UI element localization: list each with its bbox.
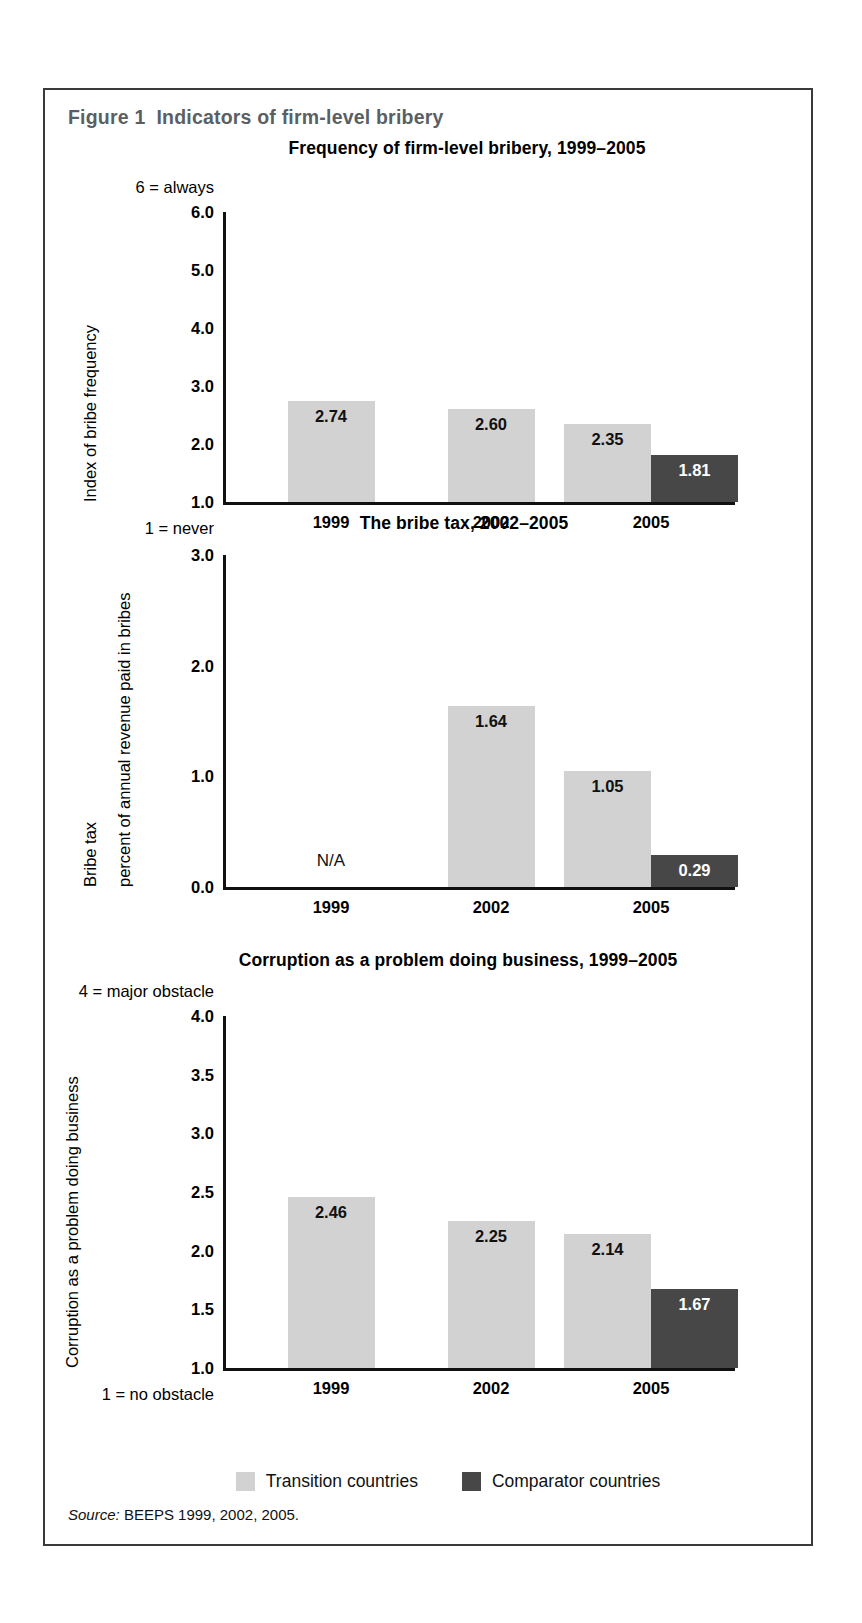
y-tick-label: 3.0 bbox=[191, 377, 214, 396]
bar-value-label: 1.05 bbox=[564, 778, 651, 795]
x-tick-label-1999: 1999 bbox=[313, 898, 350, 917]
source-text: BEEPS 1999, 2002, 2005. bbox=[124, 1506, 299, 1523]
x-axis-line bbox=[223, 887, 735, 890]
legend-swatch-comparator bbox=[462, 1472, 481, 1491]
bar-transition-1999: 2.74 bbox=[288, 401, 375, 502]
y-tick-label: 6.0 bbox=[191, 203, 214, 222]
figure-frame: Figure 1Indicators of firm-level bribery… bbox=[43, 88, 813, 1546]
legend-item-comparator: Comparator countries bbox=[462, 1471, 660, 1492]
bar-transition-2002: 2.60 bbox=[448, 409, 535, 502]
bar-value-label: 2.35 bbox=[564, 431, 651, 448]
y-tick-label: 2.0 bbox=[191, 656, 214, 675]
bar-value-label: 0.29 bbox=[651, 862, 738, 879]
source-keyword: Source: bbox=[68, 1506, 120, 1523]
y-tick-label: 3.0 bbox=[191, 1124, 214, 1143]
y-axis-line bbox=[223, 555, 226, 887]
y-tick-label: 1.5 bbox=[191, 1300, 214, 1319]
panel-title: Corruption as a problem doing business, … bbox=[45, 950, 811, 971]
y-axis-top-caption: 6 = always bbox=[136, 178, 214, 197]
x-tick-label-2002: 2002 bbox=[473, 1379, 510, 1398]
figure-caption: Figure 1Indicators of firm-level bribery bbox=[68, 106, 444, 129]
bar-value-label: 1.67 bbox=[651, 1296, 738, 1313]
y-tick-label: 2.0 bbox=[191, 435, 214, 454]
x-tick-label-2005: 2005 bbox=[633, 898, 670, 917]
plot-area: 1.01.52.02.53.03.54.04 = major obstacle1… bbox=[223, 1016, 735, 1368]
chart-legend: Transition countriesComparator countries bbox=[45, 1471, 811, 1492]
y-axis-line bbox=[223, 212, 226, 502]
bar-comparator-2005: 1.67 bbox=[651, 1289, 738, 1368]
plot-area: 0.01.02.03.0N/A19991.6420021.050.292005 bbox=[223, 555, 735, 887]
legend-item-transition: Transition countries bbox=[236, 1471, 418, 1492]
y-tick-label: 5.0 bbox=[191, 261, 214, 280]
x-tick-label-2005: 2005 bbox=[633, 1379, 670, 1398]
y-tick-label: 4.0 bbox=[191, 1007, 214, 1026]
y-tick-label: 3.0 bbox=[191, 546, 214, 565]
bar-comparator-2005: 1.81 bbox=[651, 455, 738, 502]
bar-value-label: 2.14 bbox=[564, 1241, 651, 1258]
y-axis-line bbox=[223, 1016, 226, 1368]
y-axis-title: Index of bribe frequency bbox=[81, 325, 100, 502]
y-tick-label: 1.0 bbox=[191, 1359, 214, 1378]
figure-number: Figure 1 bbox=[68, 106, 145, 128]
panel-title: The bribe tax, 2002–2005 bbox=[45, 513, 811, 534]
legend-label-transition: Transition countries bbox=[266, 1471, 418, 1492]
y-axis-top-caption: 4 = major obstacle bbox=[79, 982, 214, 1001]
bar-value-label: 2.25 bbox=[448, 1228, 535, 1245]
figure-caption-text: Indicators of firm-level bribery bbox=[156, 106, 443, 128]
y-tick-label: 3.5 bbox=[191, 1065, 214, 1084]
x-axis-line bbox=[223, 1368, 735, 1371]
x-tick-label-2002: 2002 bbox=[473, 898, 510, 917]
y-axis-bottom-caption: 1 = no obstacle bbox=[102, 1385, 214, 1404]
legend-swatch-transition bbox=[236, 1472, 255, 1491]
bar-transition-2005: 2.35 bbox=[564, 424, 651, 502]
bar-transition-2005: 1.05 bbox=[564, 771, 651, 887]
legend-label-comparator: Comparator countries bbox=[492, 1471, 660, 1492]
bar-value-label: 1.81 bbox=[651, 462, 738, 479]
bar-value-label: 2.46 bbox=[288, 1204, 375, 1221]
y-tick-label: 1.0 bbox=[191, 493, 214, 512]
y-tick-label: 0.0 bbox=[191, 878, 214, 897]
y-axis-title: Corruption as a problem doing business bbox=[63, 1076, 82, 1368]
bar-transition-1999: 2.46 bbox=[288, 1197, 375, 1368]
bar-transition-2002: 1.64 bbox=[448, 706, 535, 887]
bar-comparator-2005: 0.29 bbox=[651, 855, 738, 887]
bar-transition-2005: 2.14 bbox=[564, 1234, 651, 1368]
y-tick-label: 1.0 bbox=[191, 767, 214, 786]
panel-title: Frequency of firm-level bribery, 1999–20… bbox=[45, 138, 811, 159]
source-note: Source: BEEPS 1999, 2002, 2005. bbox=[68, 1506, 299, 1523]
y-tick-label: 2.0 bbox=[191, 1241, 214, 1260]
bar-value-label: 2.74 bbox=[288, 408, 375, 425]
x-axis-line bbox=[223, 502, 735, 505]
bar-value-label: 1.64 bbox=[448, 713, 535, 730]
bar-value-label: 2.60 bbox=[448, 416, 535, 433]
bar-transition-2002: 2.25 bbox=[448, 1221, 535, 1368]
plot-area: 1.02.03.04.05.06.06 = always1 = never2.7… bbox=[223, 212, 735, 502]
y-tick-label: 2.5 bbox=[191, 1183, 214, 1202]
y-axis-subtitle: percent of annual revenue paid in bribes bbox=[115, 593, 134, 887]
x-tick-label-1999: 1999 bbox=[313, 1379, 350, 1398]
y-tick-label: 4.0 bbox=[191, 319, 214, 338]
missing-data-label: N/A bbox=[317, 851, 345, 871]
y-axis-title: Bribe tax bbox=[81, 822, 100, 887]
